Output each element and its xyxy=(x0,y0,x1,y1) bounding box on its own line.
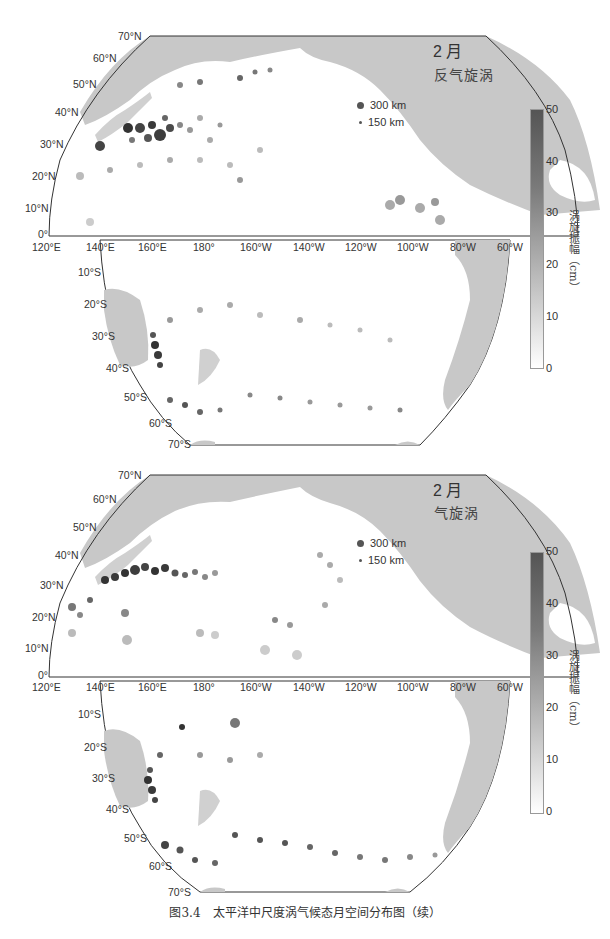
svg-text:140°E: 140°E xyxy=(86,681,115,693)
colorbar-tick: 0 xyxy=(546,805,552,817)
land-new-zealand xyxy=(198,349,220,385)
land-south-america xyxy=(443,681,510,853)
svg-text:50°N: 50°N xyxy=(73,78,96,90)
legend-item-300km: 300 km xyxy=(357,99,406,111)
svg-text:180°: 180° xyxy=(193,681,215,693)
svg-text:50°N: 50°N xyxy=(73,521,96,533)
svg-text:40°N: 40°N xyxy=(55,549,78,561)
eddy-markers-south xyxy=(144,718,438,866)
svg-text:10°S: 10°S xyxy=(78,708,101,720)
colorbar-tick: 10 xyxy=(546,310,558,322)
map-panel-cyclonic: 70°N 60°N 50°N 40°N 30°N 20°N 10°N 0° 12… xyxy=(0,455,610,900)
legend-label: 300 km xyxy=(370,537,406,549)
svg-text:30°N: 30°N xyxy=(40,138,63,150)
legend-dot-large xyxy=(357,102,364,109)
svg-text:40°N: 40°N xyxy=(55,106,78,118)
legend-label: 150 km xyxy=(368,116,404,128)
svg-text:40°S: 40°S xyxy=(106,362,129,374)
colorbar-tick: 40 xyxy=(546,155,558,167)
svg-text:40°S: 40°S xyxy=(106,803,129,815)
map-panel-anticyclonic: 70°N 60°N 50°N 40°N 30°N 20°N 10°N 0° 12… xyxy=(0,0,610,455)
svg-text:120°W: 120°W xyxy=(345,241,377,253)
svg-text:180°: 180° xyxy=(193,241,215,253)
svg-text:20°S: 20°S xyxy=(84,298,107,310)
colorbar-tick: 50 xyxy=(546,103,558,115)
land-asia xyxy=(80,475,300,568)
eddy-markers-south xyxy=(150,302,403,415)
svg-text:80°W: 80°W xyxy=(450,681,476,693)
svg-text:120°W: 120°W xyxy=(345,681,377,693)
svg-text:30°S: 30°S xyxy=(92,772,115,784)
svg-text:30°S: 30°S xyxy=(92,330,115,342)
svg-text:0°: 0° xyxy=(38,669,48,681)
colorbar-title: 涡旋振幅（cm） xyxy=(565,650,581,733)
map-svg-anticyclonic: 70°N 60°N 50°N 40°N 30°N 20°N 10°N 0° 12… xyxy=(0,0,610,455)
colorbar xyxy=(530,552,544,814)
svg-text:160°W: 160°W xyxy=(240,681,272,693)
svg-text:70°N: 70°N xyxy=(118,30,141,42)
svg-text:10°S: 10°S xyxy=(78,266,101,278)
svg-text:20°N: 20°N xyxy=(32,170,55,182)
lon-labels: 120°E 140°E 160°E 180° 160°W 140°W 120°W… xyxy=(32,241,523,253)
svg-text:60°N: 60°N xyxy=(93,52,116,64)
svg-text:60°S: 60°S xyxy=(149,860,172,872)
svg-text:60°S: 60°S xyxy=(149,417,172,429)
svg-text:160°W: 160°W xyxy=(240,241,272,253)
colorbar-tick: 50 xyxy=(546,545,558,557)
land-asia xyxy=(80,36,300,125)
colorbar-tick: 20 xyxy=(546,701,558,713)
eddy-type-label: 反气旋涡 xyxy=(434,64,494,84)
svg-text:60°W: 60°W xyxy=(497,241,523,253)
legend-dot-small xyxy=(359,559,362,562)
legend-dot-small xyxy=(359,121,362,124)
svg-text:160°E: 160°E xyxy=(138,681,167,693)
svg-text:100°W: 100°W xyxy=(397,241,429,253)
colorbar-tick: 10 xyxy=(546,753,558,765)
map-svg-cyclonic: 70°N 60°N 50°N 40°N 30°N 20°N 10°N 0° 12… xyxy=(0,455,610,900)
figure-caption: 图3.4 太平洋中尺度涡气候态月空间分布图（续） xyxy=(0,903,610,920)
svg-text:120°E: 120°E xyxy=(32,241,61,253)
land-new-zealand xyxy=(198,790,220,826)
land-australia xyxy=(104,729,148,807)
colorbar-tick: 40 xyxy=(546,597,558,609)
svg-text:10°N: 10°N xyxy=(25,202,48,214)
lon-labels: 120°E 140°E 160°E 180° 160°W 140°W 120°W… xyxy=(32,681,523,693)
legend-label: 150 km xyxy=(368,554,404,566)
legend-item-150km: 150 km xyxy=(359,116,404,128)
svg-text:70°S: 70°S xyxy=(168,886,191,898)
colorbar-title: 涡旋振幅（cm） xyxy=(565,210,581,293)
svg-text:50°S: 50°S xyxy=(124,391,147,403)
svg-text:120°E: 120°E xyxy=(32,681,61,693)
svg-text:20°S: 20°S xyxy=(84,741,107,753)
svg-text:70°S: 70°S xyxy=(168,438,191,450)
svg-text:140°W: 140°W xyxy=(293,681,325,693)
colorbar-tick: 20 xyxy=(546,258,558,270)
legend-item-150km: 150 km xyxy=(359,554,404,566)
svg-text:60°W: 60°W xyxy=(497,681,523,693)
eddy-type-label: 气旋涡 xyxy=(434,502,479,522)
svg-text:140°W: 140°W xyxy=(293,241,325,253)
svg-text:70°N: 70°N xyxy=(118,469,141,481)
svg-text:80°W: 80°W xyxy=(450,241,476,253)
legend-item-300km: 300 km xyxy=(357,537,406,549)
month-label: 2 月 xyxy=(433,38,462,62)
legend-label: 300 km xyxy=(370,99,406,111)
colorbar-tick: 30 xyxy=(546,206,558,218)
svg-text:160°E: 160°E xyxy=(138,241,167,253)
svg-text:0°: 0° xyxy=(38,228,48,240)
colorbar xyxy=(530,109,544,369)
svg-text:140°E: 140°E xyxy=(86,241,115,253)
svg-text:100°W: 100°W xyxy=(397,681,429,693)
land-south-america xyxy=(443,240,510,410)
svg-text:20°N: 20°N xyxy=(32,611,55,623)
month-label: 2 月 xyxy=(433,477,462,501)
svg-text:60°N: 60°N xyxy=(93,493,116,505)
svg-text:10°N: 10°N xyxy=(25,642,48,654)
svg-text:30°N: 30°N xyxy=(40,579,63,591)
legend-dot-large xyxy=(357,540,364,547)
svg-text:50°S: 50°S xyxy=(124,832,147,844)
colorbar-tick: 30 xyxy=(546,649,558,661)
land-australia xyxy=(104,289,148,367)
colorbar-tick: 0 xyxy=(546,362,552,374)
